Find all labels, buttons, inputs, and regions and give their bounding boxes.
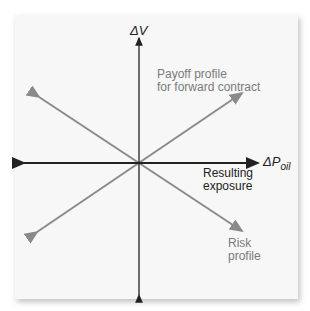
y-axis-label: ΔV <box>130 23 147 38</box>
resulting-exposure-label: Resulting exposure <box>203 167 253 193</box>
risk-profile-label: Risk profile <box>228 237 261 263</box>
forward-contract-label: Payoff profile for forward contract <box>157 68 260 94</box>
x-axis-label: ΔPoil <box>263 154 290 172</box>
